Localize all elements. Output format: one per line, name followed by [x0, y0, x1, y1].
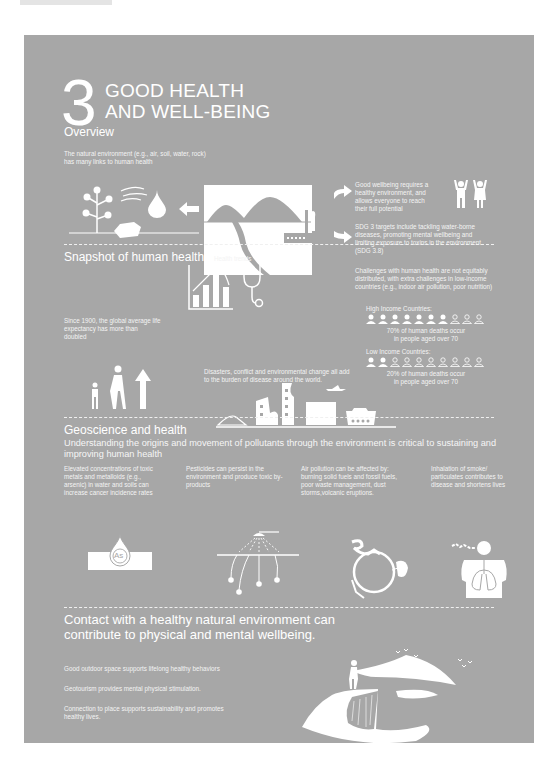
inequity-text: Challenges with human health are not equ…	[355, 267, 505, 291]
rock-icon	[112, 221, 142, 239]
arrow-down-right-icon	[334, 231, 352, 245]
high-income-caption-line-1: 70% of human deaths occur	[366, 327, 486, 335]
arsenic-symbol: As	[114, 551, 123, 560]
people-celebrating-icon	[451, 180, 491, 208]
geoscience-item-arsenic: Elevated concentrations of toxic metals …	[64, 465, 164, 497]
stethoscope-icon	[242, 265, 264, 309]
high-income-label: High Income Countries:	[366, 305, 432, 313]
page-title: GOOD HEALTH AND WELL-BEING	[105, 80, 270, 122]
low-income-people-icons	[366, 357, 486, 367]
title-line-2: AND WELL-BEING	[105, 101, 270, 122]
smokestack-icon	[309, 211, 317, 231]
contact-point-1: Good outdoor space supports lifelong hea…	[64, 665, 244, 673]
geoscience-subheading: Understanding the origins and movement o…	[64, 438, 534, 460]
birds-icon	[396, 647, 476, 677]
lungs-inhalation-icon	[450, 540, 510, 600]
life-expectancy-text: Since 1900, the global average life expe…	[64, 317, 162, 341]
low-income-label: Low Income Countries:	[366, 348, 430, 356]
wind-icon	[119, 185, 149, 207]
contact-heading: Contact with a healthy natural environme…	[64, 612, 344, 642]
geoscience-heading: Geoscience and health	[64, 423, 187, 437]
life-expectancy-figures-icon	[88, 365, 156, 410]
snapshot-heading: Snapshot of human health	[64, 250, 204, 264]
bar-chart-icon	[187, 265, 235, 311]
arrow-left-icon	[179, 202, 199, 216]
health-trends-label: Health trends	[214, 255, 251, 263]
low-income-caption-line-1: 20% of human deaths occur	[366, 370, 486, 378]
wellbeing-text: Good wellbeing requires a healthy enviro…	[355, 181, 437, 213]
section-divider	[64, 417, 494, 418]
section-divider	[64, 607, 494, 608]
water-drop-icon	[148, 190, 166, 218]
overview-heading: Overview	[64, 125, 114, 139]
low-income-caption-line-2: in people aged over 70	[366, 378, 486, 386]
pesticide-sprinkler-icon	[217, 530, 299, 600]
high-income-caption-line-2: in people aged over 70	[366, 335, 486, 343]
disaster-cityscape-icon	[216, 383, 396, 443]
contact-point-2: Geotourism provides mental physical stim…	[64, 685, 244, 693]
disasters-text: Disasters, conflict and environmental ch…	[204, 368, 354, 384]
geoscience-item-inhalation: Inhalation of smoke/ particulates contri…	[431, 465, 509, 489]
high-income-people-icons	[366, 314, 486, 324]
contact-point-3: Connection to place supports sustainabil…	[64, 705, 244, 721]
air-pollution-globe-icon	[344, 540, 414, 600]
high-income-caption: 70% of human deaths occur in people aged…	[366, 327, 486, 343]
section-divider	[64, 244, 494, 245]
title-line-1: GOOD HEALTH	[105, 80, 270, 101]
arrow-up-right-icon	[334, 185, 352, 199]
geoscience-item-pesticides: Pesticides can persist in the environmen…	[186, 465, 286, 489]
overview-intro: The natural environment (e.g., air, soil…	[64, 150, 209, 166]
low-income-caption: 20% of human deaths occur in people aged…	[366, 370, 486, 386]
geoscience-item-air-pollution: Air pollution can be affected by: burnin…	[301, 465, 407, 497]
top-label-bar	[20, 0, 112, 5]
infographic-panel: 3 GOOD HEALTH AND WELL-BEING Overview Th…	[24, 35, 534, 743]
targets-text: SDG 3 targets include tackling water-bor…	[355, 223, 485, 255]
